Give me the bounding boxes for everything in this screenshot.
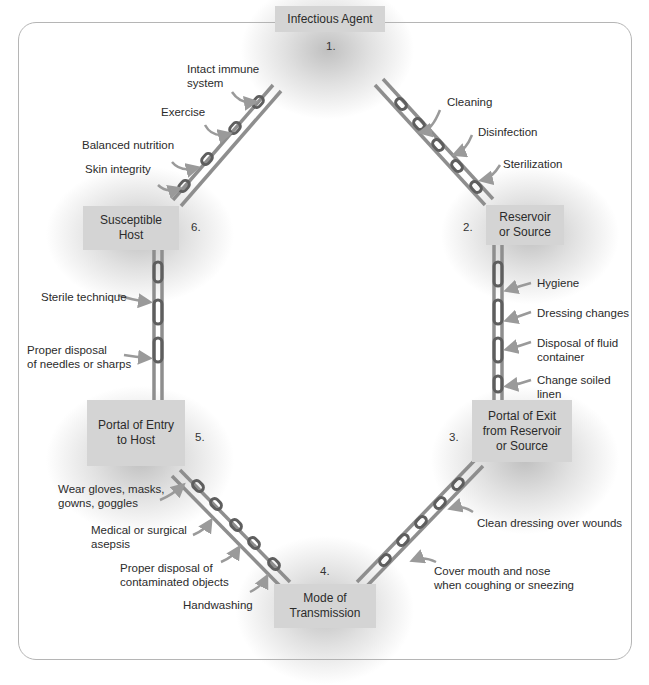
node-label: Host bbox=[119, 228, 144, 243]
link-label: Clean dressing over wounds bbox=[477, 516, 622, 530]
link-label: Proper disposalof needles or sharps bbox=[27, 343, 131, 371]
link-label: Change soiledlinen bbox=[537, 373, 611, 401]
node-label: Reservoir bbox=[499, 210, 550, 225]
node-number: 3. bbox=[449, 431, 459, 443]
node-label: Portal of Entry bbox=[98, 418, 174, 433]
link-label: Skin integrity bbox=[85, 162, 151, 176]
node-label: Susceptible bbox=[100, 213, 162, 228]
link-label: Intact immunesystem bbox=[187, 62, 259, 90]
link-label: Handwashing bbox=[183, 598, 253, 612]
link-label: Cleaning bbox=[447, 95, 492, 109]
link-label: Disposal of fluidcontainer bbox=[537, 336, 618, 364]
node-portal-of-exit: Portal of Exit from Reservoir or Source bbox=[472, 400, 572, 462]
node-number: 5. bbox=[195, 431, 205, 443]
node-mode-of-transmission: Mode of Transmission bbox=[274, 584, 376, 628]
arrows bbox=[118, 92, 531, 592]
node-number: 6. bbox=[191, 221, 201, 233]
node-reservoir: Reservoir or Source bbox=[486, 205, 564, 245]
node-label: Mode of bbox=[303, 591, 346, 606]
node-label: or Source bbox=[499, 225, 551, 240]
node-infectious-agent: Infectious Agent bbox=[275, 6, 385, 32]
node-label: or Source bbox=[496, 439, 548, 454]
node-label: to Host bbox=[117, 433, 155, 448]
node-number: 4. bbox=[320, 565, 330, 577]
node-label: from Reservoir bbox=[483, 424, 562, 439]
node-label: Portal of Exit bbox=[488, 409, 556, 424]
node-number: 2. bbox=[463, 221, 473, 233]
node-label: Infectious Agent bbox=[287, 12, 372, 27]
link-label: Disinfection bbox=[478, 125, 537, 139]
link-label: Exercise bbox=[161, 105, 205, 119]
node-label: Transmission bbox=[290, 606, 361, 621]
node-number: 1. bbox=[326, 40, 336, 52]
link-label: Dressing changes bbox=[537, 306, 629, 320]
link-label: Proper disposal ofcontaminated objects bbox=[120, 561, 229, 589]
node-susceptible-host: Susceptible Host bbox=[83, 206, 179, 250]
link-label: Medical or surgicalasepsis bbox=[91, 523, 187, 551]
link-label: Wear gloves, masks,gowns, goggles bbox=[58, 482, 165, 510]
link-label: Cover mouth and nosewhen coughing or sne… bbox=[434, 564, 574, 592]
link-label: Sterilization bbox=[503, 157, 562, 171]
link-label: Balanced nutrition bbox=[82, 138, 174, 152]
node-portal-of-entry: Portal of Entry to Host bbox=[87, 400, 185, 466]
link-label: Hygiene bbox=[537, 276, 579, 290]
link-label: Sterile technique bbox=[41, 290, 127, 304]
